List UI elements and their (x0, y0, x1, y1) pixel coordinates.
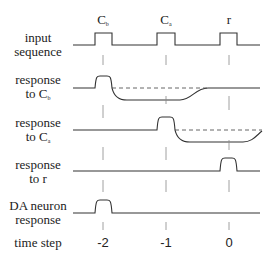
da-neuron-trace (73, 200, 260, 213)
response-r-trace (73, 158, 260, 171)
response-ca-trace (73, 117, 262, 142)
response-cb-trace (73, 76, 260, 100)
input-sequence-trace (73, 33, 260, 45)
traces-diagram (0, 0, 273, 264)
